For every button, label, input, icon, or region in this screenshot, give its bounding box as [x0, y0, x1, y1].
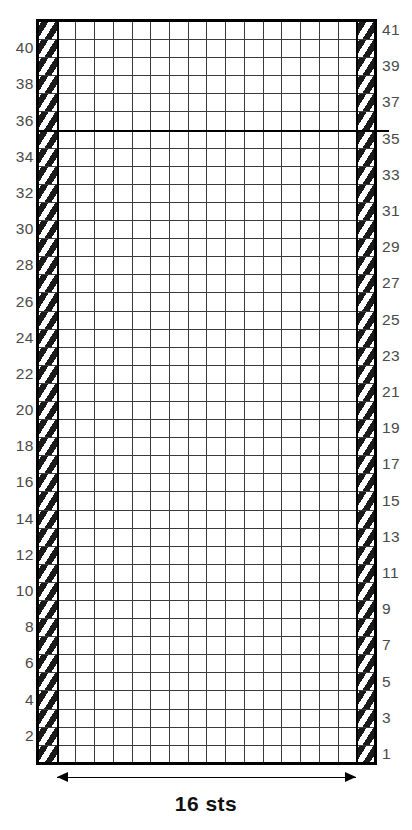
chart-cell	[113, 528, 132, 546]
chart-cell	[151, 619, 170, 637]
chart-cell	[338, 239, 357, 257]
row-number-label: 34	[0, 149, 34, 165]
chart-cell	[76, 347, 95, 365]
chart-cell	[170, 239, 189, 257]
chart-cell	[338, 202, 357, 220]
chart-cell	[95, 347, 114, 365]
chart-cell	[244, 184, 263, 202]
chart-cell	[113, 40, 132, 58]
chart-cell	[113, 673, 132, 691]
chart-cell	[132, 202, 151, 220]
chart-cell	[76, 94, 95, 112]
chart-cell	[301, 601, 320, 619]
chart-cell	[188, 40, 207, 58]
chart-cell	[170, 94, 189, 112]
chart-cell	[263, 383, 282, 401]
chart-cell	[282, 619, 301, 637]
chart-cell	[151, 257, 170, 275]
chart-cell	[113, 166, 132, 184]
chart-cell	[95, 58, 114, 76]
chart-cell	[132, 745, 151, 763]
chart-cell	[188, 365, 207, 383]
row-number-label: 37	[382, 94, 412, 110]
chart-cell	[132, 401, 151, 419]
chart-cell	[207, 148, 226, 166]
chart-cell	[226, 582, 245, 600]
row-number-label: 12	[0, 547, 34, 563]
chart-cell	[263, 275, 282, 293]
chart-cell	[207, 528, 226, 546]
chart-cell	[357, 528, 376, 546]
chart-cell	[244, 727, 263, 745]
chart-cell	[244, 275, 263, 293]
chart-cell	[244, 329, 263, 347]
chart-cell	[357, 94, 376, 112]
chart-cell	[226, 709, 245, 727]
chart-row	[39, 275, 376, 293]
chart-cell	[338, 94, 357, 112]
chart-cell	[357, 293, 376, 311]
chart-cell	[226, 727, 245, 745]
chart-cell	[282, 691, 301, 709]
chart-cell	[301, 40, 320, 58]
chart-cell	[57, 546, 76, 564]
chart-cell	[244, 492, 263, 510]
chart-cell	[95, 564, 114, 582]
chart-cell	[357, 130, 376, 148]
chart-cell	[207, 691, 226, 709]
chart-cell	[39, 275, 58, 293]
chart-cell	[132, 293, 151, 311]
row-number-label: 17	[382, 456, 412, 472]
row-number-label: 40	[0, 40, 34, 56]
chart-cell	[263, 420, 282, 438]
chart-row	[39, 311, 376, 329]
chart-cell	[263, 257, 282, 275]
chart-cell	[226, 94, 245, 112]
chart-cell	[76, 420, 95, 438]
chart-row	[39, 239, 376, 257]
chart-cell	[151, 221, 170, 239]
chart-cell	[301, 311, 320, 329]
chart-cell	[338, 257, 357, 275]
chart-cell	[39, 637, 58, 655]
chart-cell	[301, 619, 320, 637]
chart-cell	[151, 655, 170, 673]
chart-cell	[319, 401, 338, 419]
chart-cells-table	[38, 21, 376, 764]
chart-cell	[39, 365, 58, 383]
chart-row	[39, 184, 376, 202]
chart-cell	[76, 673, 95, 691]
chart-cell	[188, 709, 207, 727]
chart-cell	[338, 745, 357, 763]
chart-cell	[39, 184, 58, 202]
chart-cell	[244, 347, 263, 365]
chart-row	[39, 40, 376, 58]
chart-cell	[226, 40, 245, 58]
chart-cell	[113, 58, 132, 76]
chart-cell	[301, 347, 320, 365]
chart-cell	[76, 275, 95, 293]
chart-cell	[132, 130, 151, 148]
chart-cell	[319, 619, 338, 637]
chart-cell	[207, 365, 226, 383]
chart-cell	[39, 329, 58, 347]
chart-cell	[132, 148, 151, 166]
chart-cell	[57, 347, 76, 365]
chart-cell	[357, 492, 376, 510]
chart-cell	[207, 76, 226, 94]
chart-cell	[76, 293, 95, 311]
chart-cell	[263, 148, 282, 166]
chart-cell	[357, 655, 376, 673]
chart-cell	[338, 221, 357, 239]
chart-row	[39, 221, 376, 239]
chart-cell	[207, 655, 226, 673]
chart-cell	[338, 601, 357, 619]
chart-cell	[57, 76, 76, 94]
chart-cell	[301, 673, 320, 691]
chart-cell	[132, 727, 151, 745]
chart-cell	[113, 637, 132, 655]
chart-cell	[338, 184, 357, 202]
chart-cell	[113, 564, 132, 582]
chart-cell	[76, 202, 95, 220]
row-number-label: 8	[0, 619, 34, 635]
